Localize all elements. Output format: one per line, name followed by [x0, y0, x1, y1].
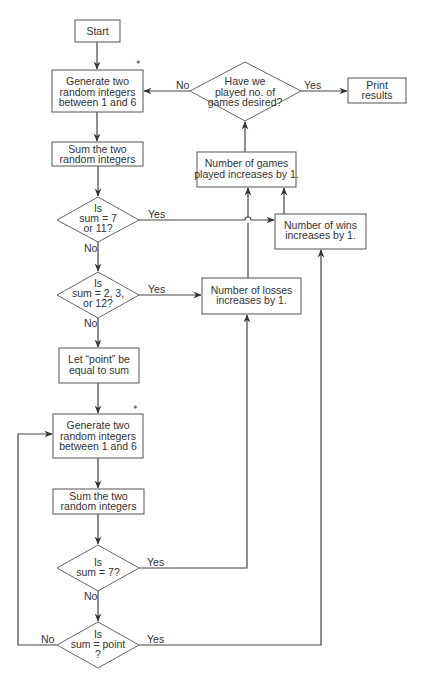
node-decision-point-line3: ? — [95, 648, 101, 660]
node-games-line2: played increases by 1. — [194, 168, 298, 180]
edge-label-dpoint-no: No — [41, 633, 55, 645]
node-print-line2: results — [362, 89, 393, 101]
node-decision-2-3-12-line3: or 12? — [83, 297, 113, 309]
node-losses-line2: increases by 1. — [216, 294, 287, 306]
node-sum2-line2: random integers — [61, 500, 137, 512]
node-wins-line2: increases by 1. — [285, 229, 356, 241]
edge-label-d7-no: No — [84, 590, 98, 602]
node-generate1-line3: between 1 and 6 — [59, 96, 137, 108]
craps-flowchart: Start Generate two random integers betwe… — [0, 0, 425, 684]
node-losses: Number of losses increases by 1. — [202, 278, 301, 314]
node-sum2: Sum the two random integers — [53, 489, 144, 514]
edge-dpoint-no — [18, 434, 57, 645]
node-games: Number of games played increases by 1. — [194, 152, 298, 187]
node-generate2-line3: between 1 and 6 — [59, 440, 137, 452]
node-decision-7-line2: sum = 7? — [76, 566, 120, 578]
node-decision-7-11: Is sum = 7 or 11? — [57, 197, 139, 242]
node-decision-point: Is sum = point ? — [57, 622, 139, 668]
edge-d7-yes — [139, 315, 247, 568]
node-decision-2-3-12: Is sum = 2, 3, or 12? — [57, 272, 139, 318]
node-let-point: Let “point” be equal to sum — [59, 348, 139, 383]
edge-label-d7-yes: Yes — [147, 556, 164, 568]
asterisk-marker: * — [133, 404, 138, 414]
node-decision-7: Is sum = 7? — [57, 545, 139, 591]
edge-label-d2312-yes: Yes — [148, 283, 165, 295]
edge-label-games-yes: Yes — [304, 79, 321, 91]
node-start-label: Start — [86, 25, 108, 37]
node-print: Print results — [348, 78, 406, 103]
node-decision-7-11-line3: or 11? — [84, 222, 113, 234]
node-sum1: Sum the two random integers — [52, 142, 143, 166]
node-decision-games: Have we played no. of games desired? — [190, 62, 301, 121]
node-decision-games-line3: games desired? — [208, 96, 283, 108]
edge-label-d711-yes: Yes — [148, 208, 165, 220]
node-wins: Number of wins increases by 1. — [275, 214, 366, 249]
edge-label-games-no: No — [176, 79, 190, 91]
node-let-point-line2: equal to sum — [69, 364, 129, 376]
connectors — [18, 42, 347, 645]
asterisk-marker: * — [136, 59, 141, 69]
edge-label-d2312-no: No — [84, 317, 98, 329]
node-sum1-line2: random integers — [60, 153, 136, 165]
edge-label-d711-no: No — [84, 242, 98, 254]
edge-label-dpoint-yes: Yes — [147, 633, 164, 645]
node-start: Start — [75, 20, 120, 42]
